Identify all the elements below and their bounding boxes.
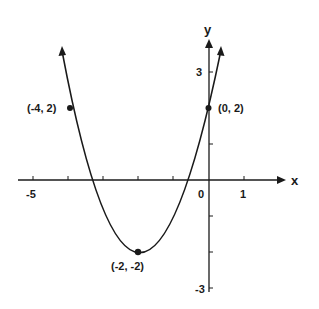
y-axis-label: y: [204, 22, 212, 37]
tick-label-x-neg5: -5: [26, 188, 36, 200]
point-0-2: [206, 105, 212, 111]
x-axis-label: x: [291, 173, 299, 188]
tick-label-y-3: 3: [196, 66, 202, 78]
left-curve-arrow-icon: [59, 46, 67, 56]
point-label-0-2: (0, 2): [218, 102, 244, 114]
point-label-neg4-2: (-4, 2): [27, 102, 57, 114]
point-neg4-2: [67, 105, 73, 111]
parabola-curve: [63, 53, 221, 252]
point-label-vertex: (-2, -2): [111, 260, 144, 272]
x-axis-arrow-icon: [277, 176, 286, 184]
tick-label-y-neg3: -3: [195, 283, 205, 295]
tick-label-x-1: 1: [240, 188, 246, 200]
right-curve-arrow-icon: [217, 46, 225, 56]
point-vertex: [135, 249, 141, 255]
tick-label-x-0: 0: [198, 188, 204, 200]
y-axis-arrow-icon: [205, 39, 213, 48]
parabola-graph: x y -5 0 1 3 -3 (-4, 2) (-2, -2) (0, 2): [0, 0, 319, 309]
